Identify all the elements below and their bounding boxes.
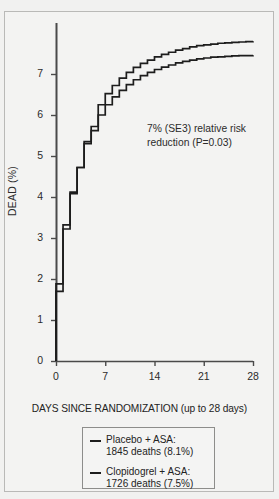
legend-item-text: Placebo + ASA: 1845 deaths (8.1%) <box>106 434 193 459</box>
legend-item: Placebo + ASA: 1845 deaths (8.1%) <box>83 434 214 459</box>
x-tick-label: 0 <box>41 370 71 382</box>
figure-page: 01234567 07142128 DEAD (%) DAYS SINCE RA… <box>0 0 279 499</box>
y-axis-title: DEAD (%) <box>6 155 18 227</box>
x-axis-title: DAYS SINCE RANDOMIZATION (up to 28 days) <box>0 403 279 414</box>
legend-item-text: Clopidogrel + ASA: 1726 deaths (7.5%) <box>106 466 193 491</box>
legend-item-title: Clopidogrel + ASA: <box>106 466 190 477</box>
annotation-line-2: reduction (P=0.03) <box>147 136 272 150</box>
annotation-line-1: 7% (SE3) relative risk <box>147 122 272 136</box>
y-tick-label: 5 <box>23 149 43 161</box>
y-tick-label: 3 <box>23 231 43 243</box>
y-tick-label: 0 <box>23 354 43 366</box>
legend-item-detail: 1726 deaths (7.5%) <box>106 478 193 489</box>
x-tick-label: 7 <box>90 370 120 382</box>
legend-item: Clopidogrel + ASA: 1726 deaths (7.5%) <box>83 466 214 491</box>
legend-line-swatch-icon <box>90 472 101 474</box>
y-tick-label: 6 <box>23 108 43 120</box>
x-tick-label: 28 <box>238 370 268 382</box>
x-tick-label: 21 <box>189 370 219 382</box>
series-line-clopidogrel-asa <box>56 55 253 361</box>
y-tick-label: 7 <box>23 67 43 79</box>
y-tick-label: 4 <box>23 190 43 202</box>
y-tick-label: 1 <box>23 313 43 325</box>
legend-line-swatch-icon <box>90 440 101 442</box>
legend-item-title: Placebo + ASA: <box>106 434 176 445</box>
risk-reduction-annotation: 7% (SE3) relative risk reduction (P=0.03… <box>147 122 272 149</box>
series-line-placebo-asa <box>56 41 253 361</box>
legend-item-detail: 1845 deaths (8.1%) <box>106 446 193 457</box>
data-series-group <box>56 41 253 361</box>
y-tick-label: 2 <box>23 272 43 284</box>
x-tick-label: 14 <box>140 370 170 382</box>
chart-legend: Placebo + ASA: 1845 deaths (8.1%) Clopid… <box>82 427 215 489</box>
plot-area: 01234567 07142128 DEAD (%) DAYS SINCE RA… <box>0 0 279 499</box>
